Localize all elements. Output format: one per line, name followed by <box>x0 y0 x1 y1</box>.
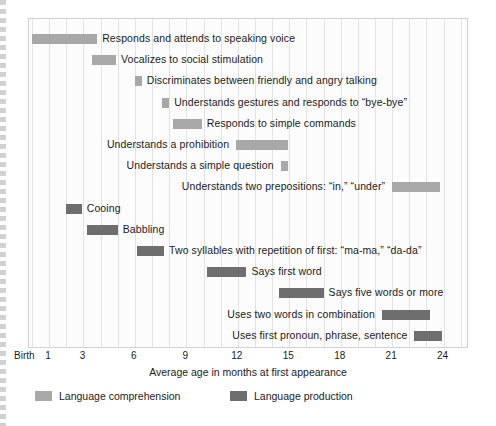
x-tick-24: 24 <box>437 350 448 361</box>
milestone-bar <box>236 140 287 150</box>
x-tick-3: 3 <box>80 350 86 361</box>
legend-swatch-comp <box>35 391 52 401</box>
chart-row: Uses first pronoun, phrase, sentence <box>29 325 467 347</box>
milestone-bar <box>135 76 142 86</box>
chart-row: Responds to simple commands <box>29 113 467 135</box>
page-binding-marks <box>0 0 6 426</box>
milestone-bar <box>137 246 164 256</box>
chart-plot-area: Responds and attends to speaking voiceVo… <box>28 18 468 348</box>
milestone-label: Babbling <box>123 221 165 238</box>
milestone-bar <box>382 310 430 320</box>
milestone-label: Uses first pronoun, phrase, sentence <box>232 327 407 344</box>
chart-row: Understands a prohibition <box>29 134 467 156</box>
x-axis-title: Average age in months at first appearanc… <box>28 366 468 378</box>
milestone-bar <box>281 161 288 171</box>
chart-row: Understands a simple question <box>29 155 467 177</box>
chart-row: Responds and attends to speaking voice <box>29 28 467 50</box>
milestone-bar <box>207 267 246 277</box>
milestone-bar <box>66 204 81 214</box>
milestone-label: Understands a simple question <box>127 157 274 174</box>
x-tick-15: 15 <box>283 350 294 361</box>
milestone-bar <box>87 225 118 235</box>
milestone-label: Responds and attends to speaking voice <box>102 30 295 47</box>
chart-row: Understands gestures and responds to “by… <box>29 92 467 114</box>
milestone-bar <box>279 288 324 298</box>
x-tick-21: 21 <box>386 350 397 361</box>
milestone-label: Understands two prepositions: “in,” “und… <box>182 178 385 195</box>
milestone-label: Understands gestures and responds to “by… <box>174 94 407 111</box>
x-tick-6: 6 <box>131 350 137 361</box>
x-tick-18: 18 <box>334 350 345 361</box>
legend-item-prod: Language production <box>230 390 353 402</box>
chart-row: Babbling <box>29 219 467 241</box>
milestone-bar <box>92 55 116 65</box>
legend-label: Language comprehension <box>59 390 180 402</box>
x-axis-ticks: Birth13691215182124 <box>28 348 468 368</box>
milestone-bar <box>32 34 97 44</box>
legend-item-comp: Language comprehension <box>35 390 180 402</box>
chart-row: Says five words or more <box>29 282 467 304</box>
legend-swatch-prod <box>230 391 247 401</box>
x-tick-9: 9 <box>183 350 189 361</box>
milestone-label: Vocalizes to social stimulation <box>121 51 263 68</box>
milestone-label: Understands a prohibition <box>107 136 229 153</box>
milestone-bar <box>162 98 169 108</box>
legend-label: Language production <box>254 390 353 402</box>
chart-row: Vocalizes to social stimulation <box>29 49 467 71</box>
milestone-bar <box>173 119 202 129</box>
milestone-bar <box>392 182 440 192</box>
x-tick-1: 1 <box>45 350 51 361</box>
milestone-label: Cooing <box>87 200 121 217</box>
chart-row: Two syllables with repetition of first: … <box>29 240 467 262</box>
milestone-label: Says first word <box>251 263 321 280</box>
chart-row: Says first word <box>29 261 467 283</box>
chart-row: Cooing <box>29 198 467 220</box>
chart-row: Discriminates between friendly and angry… <box>29 70 467 92</box>
milestone-label: Says five words or more <box>329 284 444 301</box>
chart-legend: Language comprehensionLanguage productio… <box>28 390 468 406</box>
chart-row: Understands two prepositions: “in,” “und… <box>29 176 467 198</box>
milestone-label: Uses two words in combination <box>227 306 375 323</box>
x-tick-12: 12 <box>231 350 242 361</box>
milestone-bar <box>414 331 441 341</box>
milestone-label: Responds to simple commands <box>207 115 356 132</box>
language-milestones-chart: Responds and attends to speaking voiceVo… <box>10 4 490 422</box>
milestone-label: Discriminates between friendly and angry… <box>147 72 377 89</box>
chart-row: Uses two words in combination <box>29 304 467 326</box>
milestone-label: Two syllables with repetition of first: … <box>169 242 421 259</box>
x-tick-birth: Birth <box>14 350 35 361</box>
